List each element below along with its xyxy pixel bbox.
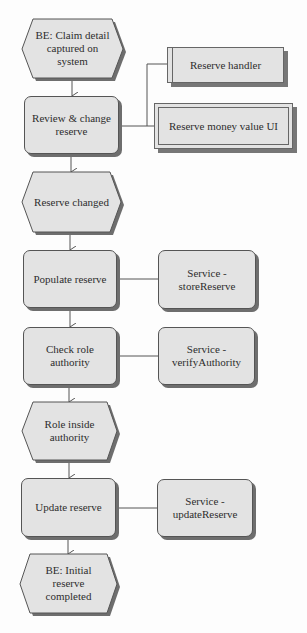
- service-label-line: verifyAuthority: [172, 356, 241, 369]
- event-label-line: Role inside: [45, 418, 95, 431]
- event-reserve-changed: Reserve changed: [22, 172, 121, 232]
- event-label-line: completed: [46, 590, 92, 603]
- service-verify-authority: Service - verifyAuthority: [158, 327, 255, 385]
- function-label-line: Populate reserve: [34, 273, 107, 286]
- service-store-reserve: Service - storeReserve: [158, 250, 256, 309]
- function-update-reserve: Update reserve: [21, 478, 116, 537]
- function-check-role-authority: Check role authority: [23, 327, 117, 385]
- diagram-canvas: [0, 0, 307, 633]
- event-initial-reserve-completed: BE: Initial reserve completed: [20, 554, 117, 613]
- function-label-line: Check role: [46, 343, 94, 356]
- event-label-line: authority: [50, 431, 90, 444]
- function-populate-reserve: Populate reserve: [23, 250, 117, 308]
- event-label-line: BE: Claim detail: [36, 29, 110, 42]
- service-label-line: Service -: [187, 267, 226, 280]
- system-reserve-money-value-ui: Reserve money value UI: [154, 103, 293, 149]
- event-label-line: Reserve changed: [34, 196, 109, 209]
- event-label-line: reserve: [53, 577, 85, 590]
- event-role-inside-authority: Role inside authority: [22, 402, 117, 460]
- service-label-line: Service -: [185, 495, 224, 508]
- service-label-line: updateReserve: [173, 508, 238, 521]
- event-label-line: captured on: [47, 42, 99, 55]
- event-label-line: BE: Initial: [45, 564, 91, 577]
- function-label-line: authority: [50, 356, 90, 369]
- service-label-line: storeReserve: [179, 280, 236, 293]
- function-label-line: Review & change: [32, 112, 111, 125]
- function-label-line: Update reserve: [35, 501, 101, 514]
- function-review-change-reserve: Review & change reserve: [24, 96, 119, 154]
- function-label-line: reserve: [56, 125, 88, 138]
- system-label-line: Reserve money value UI: [169, 120, 278, 133]
- system-reserve-handler: Reserve handler: [167, 47, 284, 83]
- event-claim-detail-captured: BE: Claim detail captured on system: [22, 19, 123, 78]
- event-label-line: system: [57, 55, 88, 68]
- service-label-line: Service -: [187, 343, 226, 356]
- system-label-line: Reserve handler: [190, 59, 261, 72]
- service-update-reserve: Service - updateReserve: [157, 479, 253, 537]
